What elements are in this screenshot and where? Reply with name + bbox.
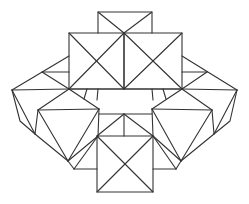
top-small-square <box>98 12 152 33</box>
left-flap <box>12 56 69 90</box>
upper-left-square <box>69 33 124 89</box>
left-kite <box>12 89 99 169</box>
geometric-net-diagram <box>0 0 249 204</box>
upper-right-square <box>124 33 182 89</box>
right-flap <box>182 56 237 90</box>
lower-trapezoid <box>97 114 153 136</box>
middle-band <box>69 89 182 114</box>
bottom-square <box>97 136 153 192</box>
